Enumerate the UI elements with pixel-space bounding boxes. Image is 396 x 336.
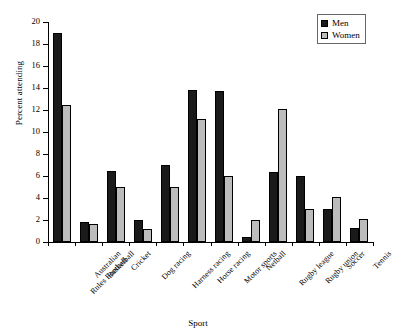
x-tick-5 [183, 242, 184, 246]
y-tick-6: 6 [43, 176, 48, 177]
y-tick-16: 16 [43, 66, 48, 67]
y-tick-label-16: 16 [32, 60, 41, 70]
bar-women [143, 229, 152, 242]
x-tick-4 [156, 242, 157, 246]
x-tick-2 [102, 242, 103, 246]
bar-women [332, 197, 341, 242]
bar-women [305, 209, 314, 242]
x-tick-11 [346, 242, 347, 246]
x-tick-1 [75, 242, 76, 246]
y-tick-label-2: 2 [36, 214, 40, 224]
y-tick-14: 14 [43, 88, 48, 89]
x-tick-7 [238, 242, 239, 246]
y-tick-8: 8 [43, 154, 48, 155]
legend: Men Women [317, 14, 366, 44]
bar-women [170, 187, 179, 242]
y-tick-10: 10 [43, 132, 48, 133]
x-axis-title: Sport [0, 318, 396, 328]
bar-men [242, 237, 251, 243]
bar-women [62, 105, 71, 243]
bar-men [269, 172, 278, 242]
bar-women [197, 119, 206, 242]
y-axis-line [48, 22, 49, 242]
bar-men [350, 228, 359, 242]
plot-area: 02468101214161820 [48, 22, 373, 242]
y-tick-4: 4 [43, 198, 48, 199]
y-tick-20: 20 [43, 22, 48, 23]
legend-item-men: Men [321, 17, 360, 29]
legend-label-men: Men [332, 18, 349, 28]
bar-women [359, 219, 368, 242]
x-tick-6 [211, 242, 212, 246]
y-tick-18: 18 [43, 44, 48, 45]
x-label-3: Dog racing [160, 249, 192, 281]
bar-men [296, 176, 305, 242]
bar-women [251, 220, 260, 242]
bar-women [224, 176, 233, 242]
y-tick-label-14: 14 [32, 82, 41, 92]
x-tick-3 [129, 242, 130, 246]
y-tick-2: 2 [43, 220, 48, 221]
y-tick-label-6: 6 [36, 170, 40, 180]
bar-men [80, 222, 89, 242]
bar-men [134, 220, 143, 242]
y-tick-label-8: 8 [36, 148, 40, 158]
bar-women [116, 187, 125, 242]
bar-chart: Percent attending 02468101214161820 Aust… [0, 0, 396, 336]
x-tick-8 [265, 242, 266, 246]
y-tick-label-18: 18 [32, 38, 41, 48]
y-tick-label-12: 12 [32, 104, 41, 114]
y-tick-label-0: 0 [36, 236, 40, 246]
x-tick-9 [292, 242, 293, 246]
y-tick-12: 12 [43, 110, 48, 111]
y-tick-label-20: 20 [32, 16, 41, 26]
bar-men [107, 171, 116, 243]
bar-men [188, 90, 197, 242]
x-label-11: Tennis [372, 249, 394, 271]
legend-label-women: Women [332, 30, 360, 40]
y-axis-title: Percent attending [14, 33, 24, 153]
x-label-10: Soccer [345, 249, 367, 271]
bar-men [53, 33, 62, 242]
x-tick-0 [48, 242, 49, 246]
legend-swatch-women-icon [321, 32, 328, 39]
x-tick-10 [319, 242, 320, 246]
bar-men [161, 165, 170, 242]
bar-men [215, 91, 224, 242]
y-tick-label-4: 4 [36, 192, 40, 202]
bar-women [278, 109, 287, 242]
legend-item-women: Women [321, 29, 360, 41]
legend-swatch-men-icon [321, 20, 328, 27]
bar-women [89, 224, 98, 242]
x-tick-12 [373, 242, 374, 246]
bar-men [323, 209, 332, 242]
y-tick-label-10: 10 [32, 126, 41, 136]
